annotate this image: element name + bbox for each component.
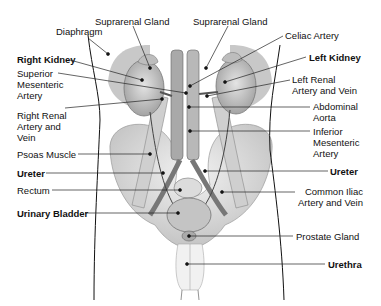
urinary-bladder-shape	[167, 198, 211, 232]
rectum-shape	[174, 178, 202, 198]
label-celiac-artery: Celiac Artery	[285, 30, 339, 41]
label-ureter-left: Ureter	[17, 168, 45, 179]
label-abdominal-aorta: Abdominal Aorta	[313, 101, 358, 123]
label-left-kidney: Left Kidney	[309, 52, 361, 63]
label-superior-mesenteric-artery: Superior Mesenteric Artery	[17, 68, 63, 101]
label-common-iliac-artery-vein: Common Iliac Artery and Vein	[298, 186, 363, 208]
label-ureter-right: Ureter	[330, 166, 358, 177]
label-right-renal-artery-vein: Right Renal Artery and Vein	[17, 110, 67, 143]
label-inferior-mesenteric-artery: Inferior Mesenteric Artery	[313, 126, 359, 159]
label-psoas-muscle: Psoas Muscle	[17, 149, 76, 160]
label-diaphragm: Diaphragm	[56, 26, 102, 37]
label-urinary-bladder: Urinary Bladder	[17, 208, 88, 219]
label-right-kidney: Right Kidney	[17, 54, 76, 65]
label-urethra: Urethra	[328, 259, 362, 270]
left-kidney-shape	[216, 58, 256, 114]
right-kidney-shape	[124, 60, 164, 116]
abdominal-aorta-shape	[187, 50, 199, 160]
label-rectum: Rectum	[17, 185, 50, 196]
vena-cava-shape	[171, 50, 183, 160]
label-suprarenal-gland-right: Suprarenal Gland	[95, 16, 169, 27]
label-prostate-gland: Prostate Gland	[296, 231, 359, 242]
label-suprarenal-gland-left: Suprarenal Gland	[193, 16, 267, 27]
body-outline-right	[88, 35, 100, 300]
label-left-renal-artery-vein: Left Renal Artery and Vein	[292, 74, 357, 96]
